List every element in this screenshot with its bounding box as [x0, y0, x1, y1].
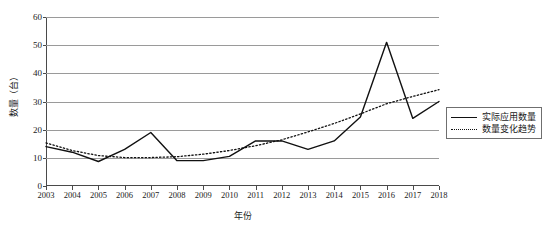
x-tick-label: 2009	[195, 191, 212, 200]
chart-legend: 实际应用数量 数量变化趋势	[446, 107, 542, 139]
y-tick-label: 50	[33, 41, 42, 50]
x-tick-label: 2013	[300, 191, 317, 200]
x-tick-label: 2007	[142, 191, 159, 200]
x-tick-label: 2004	[64, 191, 81, 200]
y-axis-title: 数量（台）	[7, 60, 20, 130]
x-tick-label: 2003	[38, 191, 55, 200]
x-tick-label: 2016	[378, 191, 395, 200]
x-tick-label: 2010	[221, 191, 238, 200]
plot-area: 0102030405060 20032004200520062007200820…	[46, 17, 439, 186]
series-lines	[46, 17, 439, 186]
x-tick-label: 2015	[352, 191, 369, 200]
x-tick-label: 2006	[116, 191, 133, 200]
x-tick-label: 2018	[431, 191, 448, 200]
x-tick-label: 2005	[90, 191, 107, 200]
x-tick-label: 2008	[169, 191, 186, 200]
x-tick-label: 2012	[273, 191, 290, 200]
y-tick-label: 10	[33, 153, 42, 162]
x-axis-title: 年份	[46, 209, 439, 222]
series-line	[46, 90, 439, 158]
line-chart-figure: 数量（台） 0102030405060 20032004200520062007…	[0, 0, 554, 239]
legend-label-trend: 数量变化趋势	[482, 124, 536, 134]
y-tick-label: 60	[33, 13, 42, 22]
legend-item-actual: 实际应用数量	[451, 111, 536, 123]
legend-label-actual: 实际应用数量	[482, 112, 536, 122]
x-tick-label: 2011	[247, 191, 264, 200]
legend-swatch-dotted-icon	[451, 129, 477, 130]
legend-item-trend: 数量变化趋势	[451, 123, 536, 135]
y-tick-label: 40	[33, 69, 42, 78]
legend-swatch-solid-icon	[451, 117, 477, 118]
y-tick-label: 30	[33, 97, 42, 106]
series-line	[46, 42, 439, 161]
x-tick-label: 2014	[326, 191, 343, 200]
y-tick-label: 20	[33, 125, 42, 134]
x-tick-label: 2017	[404, 191, 421, 200]
